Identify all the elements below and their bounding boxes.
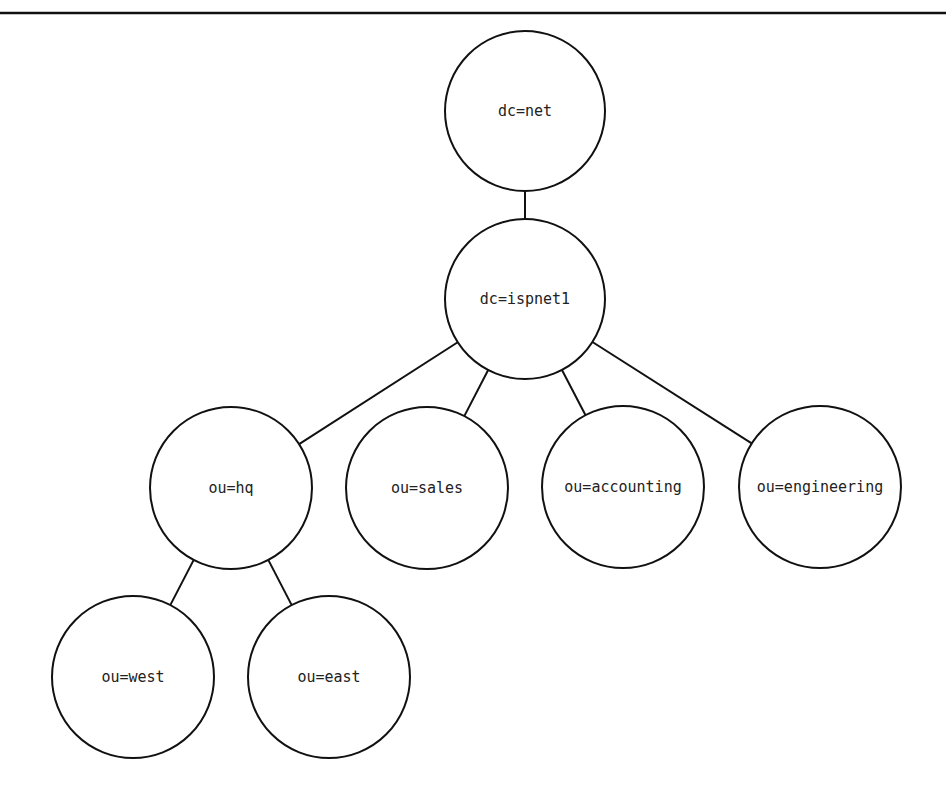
node-label: dc=net xyxy=(498,102,552,120)
node-ou-accounting: ou=accounting xyxy=(542,406,704,568)
node-ou-sales: ou=sales xyxy=(346,407,508,569)
node-label: ou=sales xyxy=(391,479,463,497)
ldap-directory-tree-diagram: dc=net dc=ispnet1 ou=hq ou=sales ou=acco… xyxy=(0,0,952,802)
node-label: ou=east xyxy=(297,668,360,686)
node-dc-net: dc=net xyxy=(445,31,605,191)
node-label: dc=ispnet1 xyxy=(480,290,570,308)
node-label: ou=hq xyxy=(208,479,253,497)
node-ou-engineering: ou=engineering xyxy=(739,406,901,568)
edge-ispnet1-sales xyxy=(464,370,488,416)
edge-hq-east xyxy=(268,560,291,605)
node-label: ou=engineering xyxy=(757,478,883,496)
edge-ispnet1-accounting xyxy=(562,370,586,415)
node-dc-ispnet1: dc=ispnet1 xyxy=(445,219,605,379)
node-ou-hq: ou=hq xyxy=(150,407,312,569)
edge-hq-west xyxy=(170,560,193,605)
node-ou-east: ou=east xyxy=(248,596,410,758)
node-label: ou=accounting xyxy=(564,478,681,496)
node-ou-west: ou=west xyxy=(52,596,214,758)
node-label: ou=west xyxy=(101,668,164,686)
